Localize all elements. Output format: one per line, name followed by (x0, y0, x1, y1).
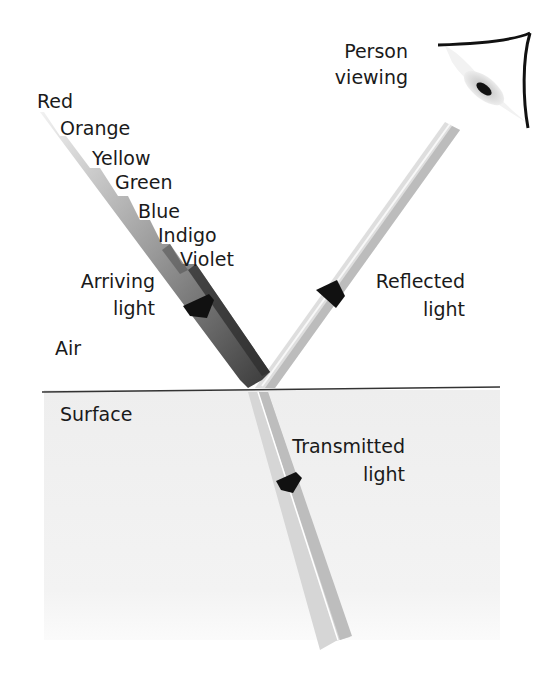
arriving-light-line1: Arriving (62, 270, 155, 292)
person-viewing-line1: Person (310, 40, 408, 62)
spectrum-label-indigo: Indigo (158, 224, 217, 246)
light-diagram (0, 0, 554, 681)
surface-label: Surface (60, 403, 132, 425)
spectrum-label-red: Red (37, 90, 73, 112)
arriving-light-line2: light (62, 297, 155, 319)
spectrum-label-green: Green (115, 171, 173, 193)
transmitted-light-line2: light (270, 463, 405, 485)
reflected-light-line2: light (350, 298, 465, 320)
person-viewing-label: Person viewing (310, 40, 408, 88)
spectrum-label-violet: Violet (180, 248, 234, 270)
reflected-light-label: Reflected light (350, 270, 465, 320)
spectrum-label-yellow: Yellow (92, 147, 151, 169)
person-viewing-line2: viewing (310, 66, 408, 88)
transmitted-light-label: Transmitted light (270, 435, 405, 485)
transmitted-light-line1: Transmitted (270, 435, 405, 457)
arriving-light-label: Arriving light (62, 270, 155, 319)
air-label: Air (55, 337, 81, 359)
spectrum-label-orange: Orange (60, 117, 130, 139)
reflected-beam (255, 122, 460, 388)
spectrum-label-blue: Blue (138, 200, 180, 222)
reflected-light-line1: Reflected (350, 270, 465, 292)
eye-icon (438, 33, 530, 128)
